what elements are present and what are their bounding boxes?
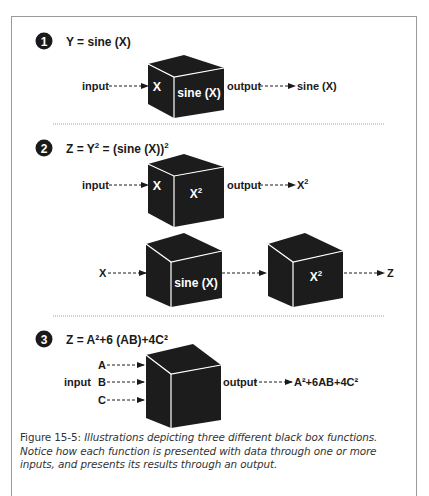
equation: Z = Y2 = (sine (X))2: [66, 141, 169, 156]
result-label: sine (X): [297, 80, 337, 92]
result-label: A²+6AB+4C²: [294, 376, 359, 388]
black-box-cube: [146, 344, 221, 428]
input-c-label: C: [98, 394, 106, 406]
cube-function-label: sine (X): [177, 86, 220, 100]
section-3: 3 Z = A²+6 (AB)+4C² input A B C output A…: [36, 331, 359, 429]
section-1: 1 Y = sine (X) X sine (X) input output s…: [36, 33, 338, 119]
section-2: 2 Z = Y2 = (sine (X))2 X X2 input output…: [36, 140, 395, 308]
figure-label: Figure 15-5:: [20, 431, 81, 443]
input-group-label: input: [64, 376, 91, 388]
step-number: 3: [41, 333, 48, 347]
black-box-cube: X sine (X): [148, 55, 224, 118]
cube-function-label: sine (X): [174, 276, 217, 290]
equation: Z = A²+6 (AB)+4C²: [66, 333, 168, 347]
input-label: input: [82, 80, 109, 92]
input-label: X: [99, 267, 107, 279]
black-box-cube-sine: sine (X): [146, 233, 222, 307]
black-box-cube: X X2: [148, 154, 224, 227]
cube-input-label: X: [153, 179, 162, 193]
result-label: Z: [387, 267, 394, 279]
input-b-label: B: [98, 376, 106, 388]
output-label: output: [227, 80, 262, 92]
input-a-label: A: [98, 359, 106, 371]
result-label: X2: [297, 177, 309, 191]
input-label: input: [82, 179, 109, 191]
figure-caption: Figure 15-5: Illustrations depicting thr…: [20, 431, 410, 472]
black-box-cube-square: X2: [268, 233, 343, 307]
step-number: 1: [41, 35, 48, 49]
output-label: output: [227, 179, 262, 191]
equation: Y = sine (X): [66, 35, 131, 49]
output-label: output: [223, 376, 258, 388]
cube-input-label: X: [153, 80, 162, 94]
step-number: 2: [41, 142, 48, 156]
black-box-diagram: 1 Y = sine (X) X sine (X) input output s…: [0, 0, 429, 430]
